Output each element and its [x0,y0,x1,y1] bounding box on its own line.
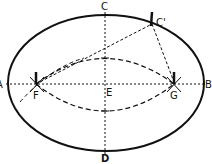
label-c-prime: C' [156,17,166,28]
label-c: C [101,1,108,12]
string-f-to-cprime [36,24,152,84]
label-d: D [101,153,109,164]
label-g: G [170,90,178,101]
label-f: F [33,90,39,101]
label-b: B [205,79,212,90]
ellipse-construction-diagram: C D A B E F G C' [0,0,212,164]
label-e: E [106,87,112,98]
pencil-cprime-icon [151,12,152,26]
label-a: A [0,79,3,90]
